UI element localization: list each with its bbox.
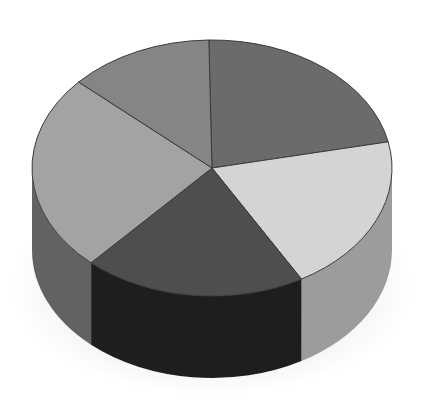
pie-chart-3d <box>0 0 425 411</box>
pie-tops <box>32 40 392 296</box>
